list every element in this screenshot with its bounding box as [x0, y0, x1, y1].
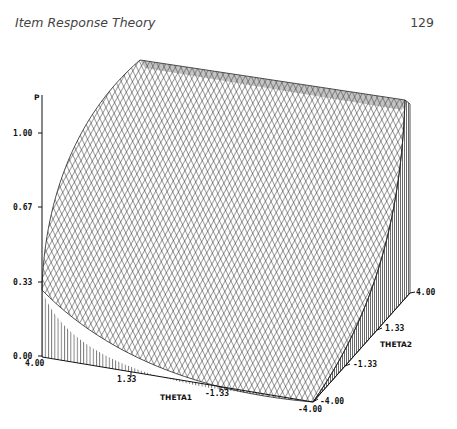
- p-tick-0.33: 0.33: [13, 278, 32, 287]
- p-tick-1.00: 1.00: [13, 129, 32, 138]
- theta2-axis-title: THETA2: [380, 340, 412, 349]
- theta2-tick-4.00: 4.00: [416, 288, 435, 297]
- surface-plot: P 1.00 0.67 0.33 0.00 4.00 1.33 -1.33 TH…: [0, 0, 457, 429]
- theta1-tick-neg4.00: -4.00: [298, 405, 322, 414]
- theta2-tick-1.33: 1.33: [385, 324, 404, 333]
- theta2-tick-neg1.33: -1.33: [353, 360, 377, 369]
- theta1-axis-title: THETA1: [160, 393, 192, 402]
- theta2-tick-neg4.00: -4.00: [320, 397, 344, 406]
- theta1-tick-1.33: 1.33: [117, 375, 136, 384]
- p-tick-0.67: 0.67: [13, 203, 32, 212]
- theta1-tick-4.00: 4.00: [25, 359, 44, 368]
- theta1-tick-neg1.33: -1.33: [205, 389, 229, 398]
- p-axis-title: P: [34, 93, 40, 102]
